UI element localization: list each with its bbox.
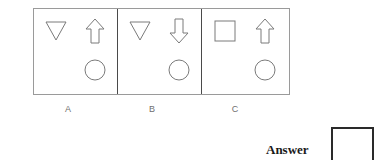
panel-a[interactable] <box>34 9 118 94</box>
panel-label-b: B <box>139 104 165 114</box>
square-icon <box>214 20 236 42</box>
circle-icon <box>168 59 190 81</box>
panel-c[interactable] <box>202 9 289 94</box>
panel-label-a: A <box>55 104 81 114</box>
triangle-down-icon <box>129 21 151 41</box>
panel-strip <box>33 8 290 95</box>
answer-box[interactable] <box>331 127 374 160</box>
panel-b[interactable] <box>118 9 202 94</box>
answer-row: Answer <box>266 125 391 160</box>
circle-icon <box>254 59 276 81</box>
triangle-down-icon <box>45 21 67 41</box>
panel-label-c: C <box>222 104 248 114</box>
panel-b-shape-bottom-right <box>165 56 193 84</box>
panel-c-shape-top-right <box>251 17 279 45</box>
arrow-down-icon <box>169 18 189 44</box>
answer-label: Answer <box>266 142 309 158</box>
puzzle-figure: A B C Answer <box>0 0 391 160</box>
circle-icon <box>84 59 106 81</box>
panel-c-shape-top-left <box>211 17 239 45</box>
panel-a-shape-bottom-right <box>81 56 109 84</box>
arrow-up-icon <box>85 18 105 44</box>
panel-a-shape-top-right <box>81 17 109 45</box>
panel-b-shape-top-right <box>165 17 193 45</box>
panel-c-shape-bottom-right <box>251 56 279 84</box>
panel-b-shape-top-left <box>126 17 154 45</box>
arrow-up-icon <box>255 18 275 44</box>
panel-a-shape-top-left <box>42 17 70 45</box>
